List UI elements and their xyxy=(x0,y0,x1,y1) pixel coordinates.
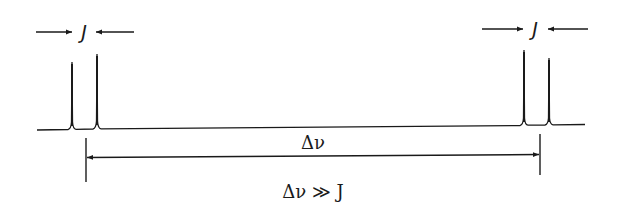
nmr-doublet-diagram: J J Δν Δν ≫ J xyxy=(0,0,621,221)
left-coupling-indicator: J xyxy=(36,21,134,43)
chemical-shift-span: Δν xyxy=(86,132,540,182)
condition-label: Δν ≫ J xyxy=(282,181,344,202)
right-coupling-label: J xyxy=(528,18,538,40)
right-coupling-indicator: J xyxy=(482,18,588,40)
span-double-arrow xyxy=(87,155,539,158)
shift-label: Δν xyxy=(301,132,325,153)
spectrum-trace xyxy=(37,50,585,130)
left-coupling-label: J xyxy=(77,21,87,43)
